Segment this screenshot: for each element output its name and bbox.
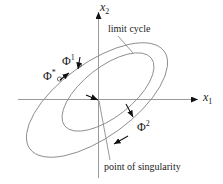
singularity-leader-line bbox=[99, 101, 110, 160]
x1-axis-label-subscript: 1 bbox=[208, 97, 212, 106]
phi-1-superscript: 1 bbox=[71, 53, 75, 62]
x1-axis-label: x1 bbox=[203, 91, 212, 106]
phi-1-base: Φ bbox=[62, 54, 71, 68]
axes-group bbox=[18, 12, 198, 178]
phi-star-base: Φ bbox=[43, 69, 52, 83]
phase-portrait-figure: x2 x1 limit cycle Φ* Φ1 Φ2 point of sing… bbox=[0, 0, 223, 184]
point-of-singularity-label: point of singularity bbox=[104, 162, 181, 172]
limit-cycle-leader-line bbox=[118, 36, 133, 53]
x2-axis-label: x2 bbox=[100, 1, 109, 16]
arrow-phi-2-descending bbox=[126, 104, 133, 117]
phi-star-label: Φ* bbox=[43, 69, 56, 82]
arrow-lower-left bbox=[114, 136, 128, 144]
limit-cycle-label: limit cycle bbox=[108, 24, 151, 34]
phi-2-superscript: 2 bbox=[146, 119, 150, 128]
phi-2-label: Φ2 bbox=[137, 120, 150, 133]
x2-axis-label-subscript: 2 bbox=[105, 7, 109, 16]
phi-2-base: Φ bbox=[137, 120, 146, 134]
phi-1-label: Φ1 bbox=[62, 54, 75, 67]
direction-arrows bbox=[60, 57, 133, 144]
phi-star-superscript: * bbox=[52, 68, 56, 77]
